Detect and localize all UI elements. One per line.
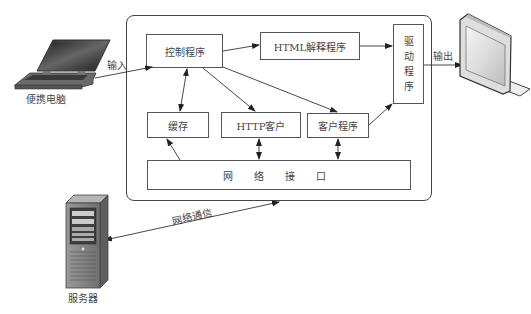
control-cache-arrow	[180, 69, 187, 111]
connectors-layer	[0, 0, 531, 314]
monitor-icon	[460, 14, 530, 96]
network-to-cache-arrow	[167, 139, 180, 160]
control-to-parser-arrow	[223, 45, 259, 51]
client-to-driver-arrow	[369, 104, 392, 125]
control-to-client-arrow	[223, 67, 337, 112]
control-to-http-arrow	[203, 68, 255, 111]
network-comm-arrow	[105, 202, 279, 240]
server-icon	[66, 195, 108, 288]
laptop-icon	[15, 40, 110, 89]
input-arrow	[95, 67, 152, 78]
